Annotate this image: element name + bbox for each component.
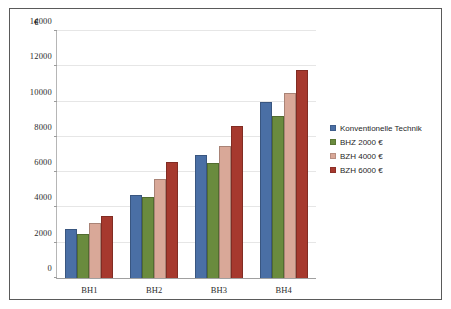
bar-group: BH2 [122,31,187,278]
bar[interactable] [219,146,231,278]
legend-item[interactable]: BZH 6000 € [330,163,440,177]
bar-group-bars [187,31,252,278]
legend-item[interactable]: Konventionelle Technik [330,121,440,135]
chart-frame: € 02000400060008000100001200014000 BH1BH… [9,8,442,300]
bar-group-bars [122,31,187,278]
y-axis-tick-label: 8000 [34,122,52,132]
legend-item-label: Konventionelle Technik [340,124,422,133]
bar-group: BH3 [187,31,252,278]
legend-item[interactable]: BZH 4000 € [330,149,440,163]
bar[interactable] [154,179,166,278]
legend-item[interactable]: BHZ 2000 € [330,135,440,149]
legend-swatch-icon [330,125,336,131]
bar[interactable] [296,70,308,278]
bar-group-bars [251,31,316,278]
legend-swatch-icon [330,153,336,159]
x-axis-category-label: BH4 [251,285,316,295]
x-axis-category-label: BH2 [122,285,187,295]
bar[interactable] [272,116,284,278]
y-axis-tick-label: 4000 [34,192,52,202]
legend-swatch-icon [330,139,336,145]
x-axis-category-label: BH1 [57,285,122,295]
bar[interactable] [231,126,243,278]
bar-group: BH1 [57,31,122,278]
bar[interactable] [89,223,101,278]
bar-group: BH4 [251,31,316,278]
chart-legend: Konventionelle TechnikBHZ 2000 €BZH 4000… [330,121,440,177]
y-axis-tick-label: 12000 [30,51,52,61]
bar[interactable] [77,234,89,278]
bar-group-bars [57,31,122,278]
bar[interactable] [195,155,207,279]
legend-item-label: BZH 4000 € [340,152,383,161]
y-axis-tick-label: 6000 [34,157,52,167]
bar[interactable] [284,93,296,278]
bar[interactable] [101,216,113,278]
plot-area: 02000400060008000100001200014000 BH1BH2B… [56,31,316,279]
bar[interactable] [207,163,219,278]
y-axis-tick-label: 0 [48,263,52,273]
bar[interactable] [142,197,154,278]
bar[interactable] [130,195,142,278]
legend-swatch-icon [330,167,336,173]
bar[interactable] [65,229,77,278]
legend-item-label: BZH 6000 € [340,166,383,175]
legend-item-label: BHZ 2000 € [340,138,383,147]
bar[interactable] [260,102,272,278]
y-axis-tick-label: 10000 [30,87,52,97]
x-axis-category-label: BH3 [187,285,252,295]
y-axis-tick-label: 2000 [34,228,52,238]
bar[interactable] [166,162,178,278]
y-axis-tick-label: 14000 [30,16,52,26]
